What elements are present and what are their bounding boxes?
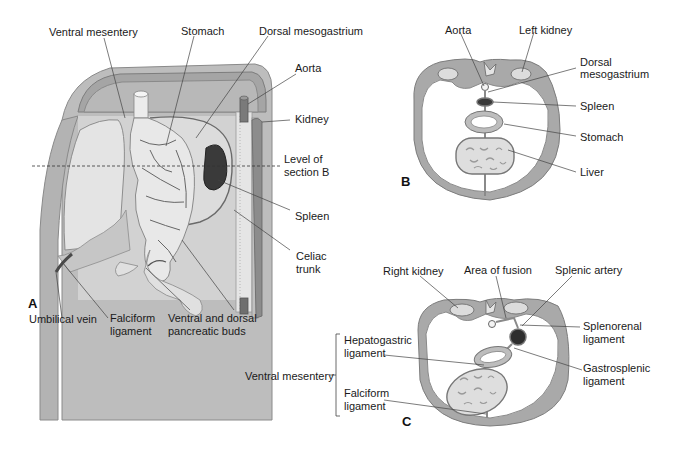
label-aorta-b: Aorta [445, 24, 471, 37]
label-falciform-a-line2: ligament [110, 325, 152, 338]
label-celiac-trunk-line2: trunk [296, 263, 320, 276]
label-falciform-c-line1: Falciform [344, 387, 389, 400]
label-falciform-a-line1: Falciform [110, 312, 155, 325]
label-falciform-c-line2: ligament [344, 400, 386, 413]
label-pancreatic-buds-line1: Ventral and dorsal [168, 312, 257, 325]
label-liver: Liver [580, 166, 604, 179]
label-spleen-b: Spleen [580, 100, 614, 113]
label-kidney-a: Kidney [295, 113, 329, 126]
label-dorsal-mesogastrium-b-line2: mesogastrium [580, 68, 649, 81]
label-umbilical-vein: Umbilical vein [29, 313, 97, 326]
label-stomach-b: Stomach [580, 131, 623, 144]
label-splenic-artery: Splenic artery [555, 264, 622, 277]
label-left-kidney: Left kidney [519, 24, 572, 37]
label-gastrosplenic-line1: Gastrosplenic [583, 362, 650, 375]
label-hepatogastric-line1: Hepatogastric [344, 334, 412, 347]
label-right-kidney: Right kidney [383, 265, 444, 278]
diagram-canvas [0, 0, 674, 453]
label-level-section-b-line1: Level of [284, 153, 323, 166]
panel-label-b: B [401, 174, 410, 189]
label-gastrosplenic-line2: ligament [583, 375, 625, 388]
label-aorta-a: Aorta [295, 62, 321, 75]
label-ventral-mesentery-c: Ventral mesentery [245, 370, 334, 383]
label-dorsal-mesogastrium-a: Dorsal mesogastrium [259, 25, 363, 38]
label-spleen-a: Spleen [295, 210, 329, 223]
panel-a-illustration [32, 36, 296, 420]
label-level-section-b-line2: section B [284, 166, 329, 179]
label-splenorenal-line1: Splenorenal [583, 320, 642, 333]
label-pancreatic-buds-line2: pancreatic buds [168, 325, 246, 338]
label-splenorenal-line2: ligament [583, 333, 625, 346]
panel-label-a: A [28, 296, 37, 311]
panel-label-c: C [402, 414, 411, 429]
panel-b-cross-section [414, 32, 576, 200]
label-hepatogastric-line2: ligament [344, 347, 386, 360]
label-area-of-fusion: Area of fusion [464, 264, 532, 277]
label-celiac-trunk-line1: Celiac [296, 250, 327, 263]
label-stomach-a: Stomach [181, 25, 224, 38]
label-ventral-mesentery-a: Ventral mesentery [49, 26, 138, 39]
